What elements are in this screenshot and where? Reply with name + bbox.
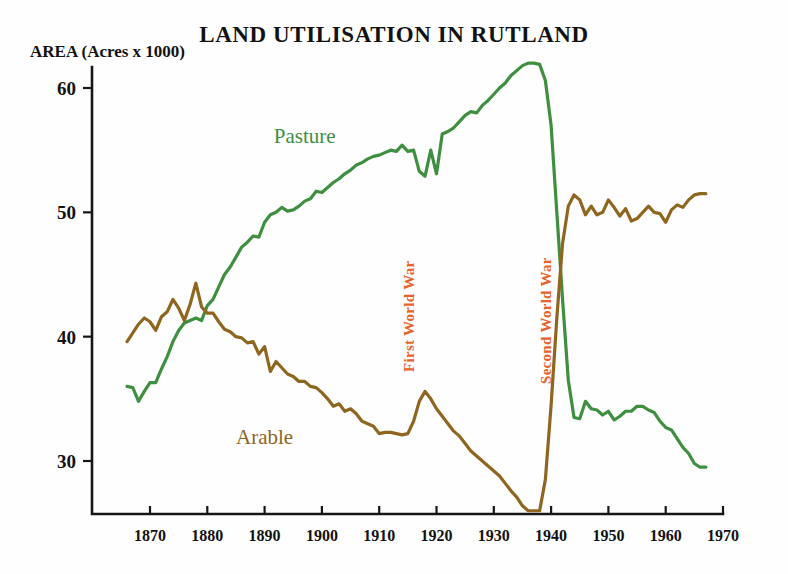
y-axis-ticks: 30405060 bbox=[57, 78, 92, 472]
y-tick-label: 40 bbox=[57, 327, 76, 348]
line-chart: 1870188018901900191019201930194019501960… bbox=[0, 0, 788, 574]
x-tick-label: 1930 bbox=[478, 527, 510, 544]
x-tick-label: 1960 bbox=[650, 527, 682, 544]
x-tick-label: 1900 bbox=[306, 527, 338, 544]
series-label-pasture: Pasture bbox=[274, 124, 336, 148]
war-annotations-group: First World WarSecond World War bbox=[401, 257, 555, 384]
x-tick-label: 1870 bbox=[134, 527, 166, 544]
x-tick-label: 1890 bbox=[249, 527, 281, 544]
x-tick-label: 1880 bbox=[191, 527, 223, 544]
y-tick-label: 30 bbox=[57, 451, 76, 472]
x-tick-label: 1970 bbox=[707, 527, 739, 544]
y-tick-label: 60 bbox=[57, 78, 76, 99]
series-labels-group: PastureArable bbox=[236, 124, 336, 449]
x-tick-label: 1940 bbox=[535, 527, 567, 544]
y-tick-label: 50 bbox=[57, 202, 76, 223]
x-tick-label: 1950 bbox=[592, 527, 624, 544]
x-tick-label: 1920 bbox=[421, 527, 453, 544]
chart-page: LAND UTILISATION IN RUTLAND AREA (Acres … bbox=[0, 0, 788, 574]
x-axis-ticks: 1870188018901900191019201930194019501960… bbox=[134, 506, 739, 544]
annotation-label: Second World War bbox=[538, 257, 554, 384]
x-tick-label: 1910 bbox=[363, 527, 395, 544]
series-label-arable: Arable bbox=[236, 425, 293, 449]
annotation-label: First World War bbox=[401, 261, 417, 372]
